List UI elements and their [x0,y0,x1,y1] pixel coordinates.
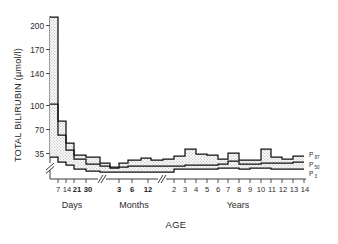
x-tick-label-year-9: 9 [248,185,252,194]
x-tick-label-year-8: 8 [237,185,241,194]
x-tick-label-month-3: 3 [117,185,121,194]
x-tick-label-year-14: 14 [301,185,309,194]
x-tick-label-year-6: 6 [216,185,220,194]
legend-p97-base: P [309,151,314,158]
x-tick-label-year-5: 5 [205,185,209,194]
bilirubin-percentile-chart: TOTAL BILIRUBIN (µmol/l) 200 170 140 [0,0,338,244]
y-tick-label-140: 140 [30,69,44,79]
x-tick-label-year-11: 11 [268,185,276,194]
x-axis-title: AGE [166,219,187,230]
x-tick-label-month-12: 12 [144,185,152,194]
x-tick-label-day-7: 7 [56,185,60,194]
x-tick-label-year-7: 7 [226,185,230,194]
x-tick-label-day-14: 14 [63,185,71,194]
y-tick-label-200: 200 [30,21,44,31]
legend-p50-sub: 50 [314,165,320,170]
y-tick-label-170: 170 [30,45,44,55]
months-group-label: Months [119,200,149,210]
legend-p3-sub: 3 [314,174,317,179]
years-group-label: Years [227,200,250,210]
y-tick-label-35: 35 [35,149,45,159]
x-tick-label-year-12: 12 [279,185,287,194]
x-tick-label-year-13: 13 [290,185,298,194]
legend-p97-sub: 97 [314,155,320,160]
y-axis-title: TOTAL BILIRUBIN (µmol/l) [13,48,23,162]
legend-p3-base: P [309,170,314,177]
x-tick-label-day-30: 30 [84,185,92,194]
x-tick-label-year-3: 3 [183,185,187,194]
y-tick-label-100: 100 [30,101,44,111]
y-tick-label-70: 70 [35,125,45,135]
days-group-label: Days [62,200,83,210]
x-tick-label-year-4: 4 [194,185,198,194]
x-tick-label-day-21: 21 [73,185,82,194]
x-tick-label-year-10: 10 [257,185,265,194]
x-tick-label-year-2: 2 [172,185,176,194]
legend-p50-base: P [309,161,314,168]
y-axis-title-text: TOTAL BILIRUBIN (µmol/l) [13,48,23,162]
x-tick-label-month-6: 6 [130,185,134,194]
